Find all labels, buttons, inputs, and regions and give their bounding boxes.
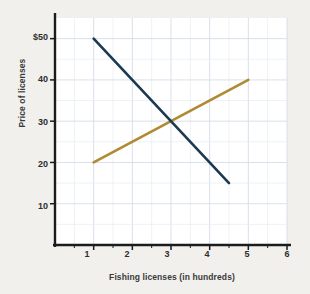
supply-demand-chart: Price of licenses $50 40 30 20 10 1 2 3 … [0,0,310,294]
plot-area [0,0,310,294]
